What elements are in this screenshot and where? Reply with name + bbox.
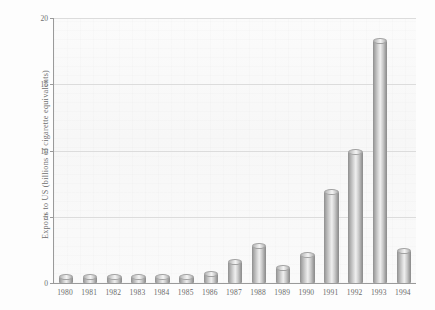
- x-axis-tick-label-1985: 1985: [178, 288, 194, 297]
- y-axis-tick-label: 0: [44, 279, 48, 288]
- x-axis-tick-label-1990: 1990: [298, 288, 314, 297]
- x-axis-tick-label-1980: 1980: [57, 288, 73, 297]
- bar-1990: [300, 255, 314, 283]
- bar-top-ellipse: [300, 252, 314, 258]
- bar-top-ellipse: [276, 265, 290, 271]
- bar-1989: [276, 268, 290, 283]
- x-axis-tick-label-1989: 1989: [274, 288, 290, 297]
- bar-top-ellipse: [83, 274, 97, 280]
- x-axis-tick-label-1993: 1993: [371, 288, 387, 297]
- y-axis-tick-label: 5: [44, 212, 48, 221]
- bar-top-ellipse: [179, 274, 193, 280]
- bar-chart-figure: Exports to US (billions of cigarette equ…: [0, 0, 435, 310]
- bar-top-ellipse: [204, 271, 218, 277]
- bar-top-ellipse: [228, 259, 242, 265]
- bar-1983: [131, 277, 145, 283]
- x-axis-tick-label-1984: 1984: [154, 288, 170, 297]
- y-axis-tick-label: 10: [41, 146, 49, 155]
- bar-top-ellipse: [373, 38, 387, 44]
- x-axis-tick-label-1983: 1983: [130, 288, 146, 297]
- x-axis-tick-label-1981: 1981: [81, 288, 97, 297]
- bar-1985: [179, 277, 193, 283]
- bar-1992: [348, 152, 362, 283]
- y-axis-tick-label: 15: [41, 80, 49, 89]
- bar-top-ellipse: [348, 149, 362, 155]
- x-axis-tick-label-1992: 1992: [347, 288, 363, 297]
- bar-1991: [324, 192, 338, 283]
- y-axis-tick-0: [50, 283, 54, 284]
- x-axis-tick-label-1982: 1982: [105, 288, 121, 297]
- bar-1984: [155, 277, 169, 283]
- bar-1987: [228, 262, 242, 283]
- bar-1980: [59, 277, 73, 283]
- x-axis-tick-label-1994: 1994: [395, 288, 411, 297]
- x-axis-tick-label-1988: 1988: [250, 288, 266, 297]
- bar-top-ellipse: [397, 248, 411, 254]
- bar-top-ellipse: [107, 274, 121, 280]
- bar-1988: [252, 246, 266, 283]
- bar-top-ellipse: [131, 274, 145, 280]
- bars-group: [54, 18, 416, 283]
- x-axis-tick-label-1987: 1987: [226, 288, 242, 297]
- bar-1981: [83, 277, 97, 283]
- x-axis-tick-label-1991: 1991: [323, 288, 339, 297]
- bar-top-ellipse: [155, 274, 169, 280]
- gridline-0: [54, 283, 416, 284]
- plot-area: 05101520: [53, 18, 416, 284]
- bar-top-ellipse: [59, 274, 73, 280]
- bar-1993: [373, 41, 387, 283]
- bar-1986: [204, 274, 218, 283]
- bar-top-ellipse: [324, 189, 338, 195]
- bar-1982: [107, 277, 121, 283]
- bar-top-ellipse: [252, 243, 266, 249]
- x-axis-tick-labels: 1980198119821983198419851986198719881989…: [53, 288, 415, 308]
- x-axis-tick-label-1986: 1986: [202, 288, 218, 297]
- y-axis-tick-label: 20: [41, 14, 49, 23]
- bar-1994: [397, 251, 411, 283]
